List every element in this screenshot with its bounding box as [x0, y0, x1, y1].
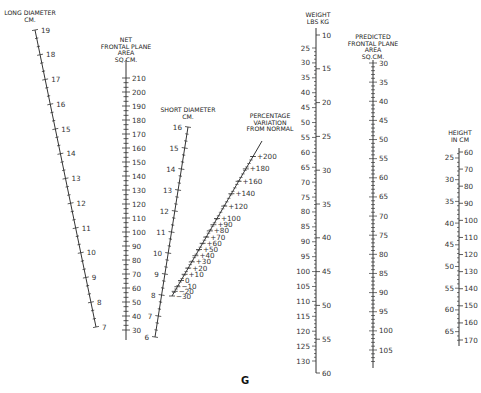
short-diameter-minor-tick: [169, 239, 172, 240]
short-diameter-tick-label: 9: [154, 270, 159, 279]
long-diameter-tick-label: 11: [82, 224, 91, 233]
long-diameter-tick-label: 9: [92, 273, 97, 282]
long-diameter-minor-tick: [83, 269, 86, 270]
predicted-frontal-area-tick-label: 30: [379, 59, 389, 68]
long-diameter-minor-tick: [66, 186, 69, 187]
short-diameter-minor-tick: [159, 302, 162, 303]
short-diameter-tick-label: 11: [156, 228, 165, 237]
weight-lbs-label: 35: [301, 73, 310, 82]
weight-kg-label: 35: [322, 200, 331, 209]
short-diameter-major-tick: [178, 169, 184, 170]
short-diameter-minor-tick: [168, 246, 171, 247]
long-diameter-tick-label: 7: [102, 323, 107, 332]
nomogram: LONG DIAMETERCM.19181716151413121110987 …: [0, 0, 481, 393]
net-frontal-area-tick-label: 180: [132, 116, 146, 125]
net-frontal-area-tick-label: 30: [132, 326, 142, 335]
net-frontal-area-tick-label: 150: [132, 158, 146, 167]
predicted-frontal-area-tick-label: 80: [379, 250, 389, 259]
height-in-label: 25: [445, 153, 454, 162]
height-cm-label: 100: [464, 216, 478, 225]
percentage-variation-tick-label: −30: [176, 292, 192, 301]
weight-lbs-label: 50: [301, 118, 311, 127]
height-cm-label: 120: [464, 250, 478, 259]
long-diameter-tick-label: 12: [77, 199, 86, 208]
weight-lbs-label: 125: [296, 342, 310, 351]
predicted-frontal-area-tick-label: 45: [379, 116, 388, 125]
net-frontal-area-tick-label: 200: [132, 88, 146, 97]
short-diameter-minor-tick: [178, 183, 181, 184]
percentage-variation-tick-label: +180: [250, 164, 270, 173]
weight-lbs-label: 90: [301, 237, 311, 246]
net-frontal-area-tick-label: 50: [132, 298, 142, 307]
percentage-variation-tick-label: +120: [228, 202, 248, 211]
weight-lbs-label: 95: [301, 252, 310, 261]
weight-lbs-label: 105: [296, 282, 310, 291]
predicted-frontal-area-tick-label: 35: [379, 78, 388, 87]
predicted-frontal-area-tick-label: 70: [379, 212, 389, 221]
net-frontal-area-tick-label: 60: [132, 284, 142, 293]
predicted-frontal-area-tick-label: 60: [379, 173, 389, 182]
weight-lbs-label: 70: [301, 178, 311, 187]
short-diameter-minor-tick: [164, 267, 167, 268]
percentage-variation-tick-label: +200: [257, 152, 277, 161]
short-diameter-tick-label: 16: [173, 123, 183, 132]
weight-kg-label: 10: [322, 31, 332, 40]
net-frontal-area-tick-label: 80: [132, 256, 142, 265]
short-diameter-title: CM.: [182, 113, 194, 120]
short-diameter-minor-tick: [179, 176, 182, 177]
weight-kg-label: 30: [322, 166, 332, 175]
height-cm-label: 110: [464, 233, 478, 242]
long-diameter-minor-tick: [45, 87, 48, 88]
long-diameter-tick-label: 15: [61, 125, 70, 134]
height-title: IN CM: [451, 136, 469, 143]
long-diameter-minor-tick: [71, 211, 74, 212]
height-in-label: 35: [445, 197, 454, 206]
long-diameter-minor-tick: [81, 261, 84, 262]
weight-kg-label: 20: [322, 98, 332, 107]
long-diameter-minor-tick: [62, 170, 65, 171]
long-diameter-minor-tick: [60, 162, 63, 163]
short-diameter-tick-label: 12: [160, 207, 169, 216]
predicted-frontal-area-tick-label: 95: [379, 307, 388, 316]
short-diameter-minor-tick: [184, 141, 187, 142]
short-diameter-major-tick: [165, 253, 171, 254]
long-diameter-minor-tick: [72, 219, 75, 220]
short-diameter-minor-tick: [182, 155, 185, 156]
weight-lbs-label: 100: [296, 267, 310, 276]
height-cm-label: 90: [464, 199, 474, 208]
weight-lbs-label: 45: [301, 103, 310, 112]
short-diameter-major-tick: [182, 148, 188, 149]
net-frontal-area-scale: NETFRONTAL PLANEAREASQ.CM.21020019018017…: [101, 36, 151, 340]
figure-label: G: [241, 375, 249, 386]
weight-lbs-label: 130: [296, 357, 310, 366]
short-diameter-tick-label: 10: [153, 249, 163, 258]
height-cm-label: 140: [464, 284, 478, 293]
short-diameter-minor-tick: [171, 225, 174, 226]
long-diameter-minor-tick: [88, 294, 91, 295]
net-frontal-area-tick-label: 90: [132, 242, 142, 251]
long-diameter-tick-label: 10: [87, 248, 97, 257]
short-diameter-major-tick: [155, 316, 161, 317]
percentage-variation-title: FROM NORMAL: [247, 125, 294, 132]
long-diameter-minor-tick: [42, 71, 45, 72]
long-diameter-minor-tick: [86, 285, 89, 286]
short-diameter-major-tick: [159, 295, 165, 296]
short-diameter-minor-tick: [162, 281, 165, 282]
short-diameter-major-tick: [152, 337, 158, 338]
long-diameter-minor-tick: [93, 318, 96, 319]
height-in-label: 40: [445, 219, 455, 228]
short-diameter-minor-tick: [174, 204, 177, 205]
weight-lbs-label: 75: [301, 193, 310, 202]
predicted-frontal-area-tick-label: 75: [379, 231, 388, 240]
weight-lbs-label: 85: [301, 222, 310, 231]
weight-title: LBS KG: [307, 18, 330, 25]
predicted-frontal-area-tick-label: 105: [379, 346, 393, 355]
weight-kg-label: 60: [322, 369, 332, 378]
height-cm-label: 150: [464, 301, 478, 310]
short-diameter-tick-label: 14: [166, 165, 176, 174]
height-cm-label: 70: [464, 165, 474, 174]
short-diameter-minor-tick: [172, 218, 175, 219]
height-cm-label: 80: [464, 182, 474, 191]
long-diameter-scale: LONG DIAMETERCM.19181716151413121110987: [4, 9, 106, 332]
short-diameter-major-tick: [185, 127, 191, 128]
